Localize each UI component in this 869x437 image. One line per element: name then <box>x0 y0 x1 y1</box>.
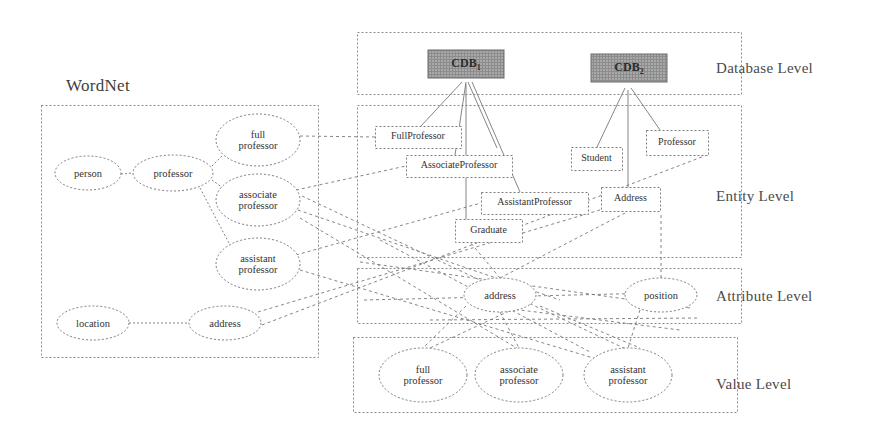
entity-node-AssistantProfessor[interactable] <box>482 193 589 215</box>
edge-wordnet-internal-2 <box>212 180 223 188</box>
edge-wordnet-to-entity-0 <box>300 136 375 137</box>
level-box-database <box>358 33 742 95</box>
database-node-CDB1[interactable] <box>428 50 504 78</box>
edge-entity-to-attribute-4 <box>540 306 640 348</box>
level-label-value: Value Level <box>716 376 791 393</box>
entity-node-FullProfessor[interactable] <box>376 127 462 149</box>
edge-wordnet-internal-1 <box>212 156 222 166</box>
attribute-node-address[interactable] <box>464 278 536 312</box>
entity-node-Student[interactable] <box>572 148 623 171</box>
wordnet-node-location[interactable] <box>57 306 129 340</box>
edge-attribute-to-value-1 <box>500 312 519 348</box>
edge-db-to-entity-0 <box>421 82 462 126</box>
entity-node-Professor[interactable] <box>647 131 709 156</box>
wordnet-node-address[interactable] <box>189 306 261 340</box>
edge-db-to-entity-2 <box>468 82 497 148</box>
level-label-database: Database Level <box>716 60 813 77</box>
wordnet-node-person[interactable] <box>55 156 121 190</box>
edge-wordnet-to-entity-2 <box>296 203 481 255</box>
edge-attribute-to-value-2 <box>628 310 640 348</box>
value-node-associate-professor[interactable] <box>475 348 563 402</box>
edge-attribute-to-value-0 <box>423 306 466 348</box>
diagram-canvas: WordNet Database LevelEntity LevelAttrib… <box>0 0 869 437</box>
wordnet-title: WordNet <box>66 76 130 96</box>
entity-node-AssociateProfessor[interactable] <box>407 156 513 178</box>
edge-attribute-to-value-4 <box>430 318 700 320</box>
value-node-full-professor[interactable] <box>379 348 467 402</box>
wordnet-node-professor[interactable] <box>133 155 213 191</box>
wordnet-node-associate-professor[interactable] <box>216 174 300 226</box>
wordnet-node-assistant-professor[interactable] <box>216 238 300 290</box>
edge-wordnet-to-entity-1 <box>296 166 406 190</box>
entity-node-Graduate[interactable] <box>456 220 523 243</box>
wordnet-node-full-professor[interactable] <box>216 114 300 166</box>
edge-entity-to-attribute-1 <box>470 242 500 278</box>
edge-wordnet-internal-0 <box>121 173 134 174</box>
edge-wordnet-to-entity-4 <box>300 270 600 360</box>
database-node-CDB2[interactable] <box>591 54 667 82</box>
level-label-entity: Entity Level <box>716 188 794 205</box>
level-label-attribute: Attribute Level <box>716 288 813 305</box>
value-node-assistant-professor[interactable] <box>584 348 672 402</box>
entity-node-Address[interactable] <box>602 188 661 212</box>
attribute-node-position[interactable] <box>625 278 697 312</box>
edge-db-to-entity-5 <box>597 88 625 147</box>
